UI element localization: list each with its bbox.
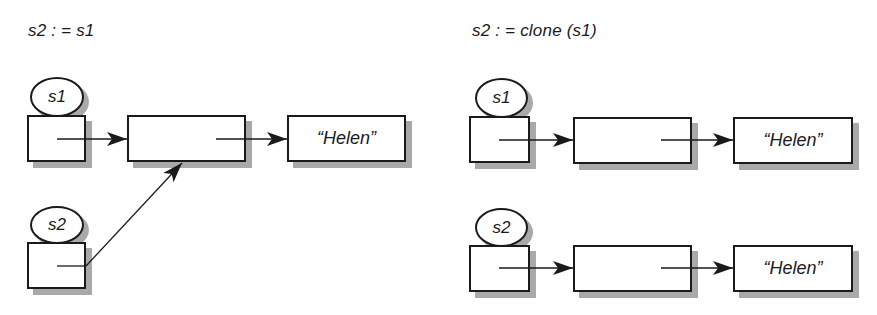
object-box-2 — [573, 245, 692, 292]
string-box-helen-1: “Helen” — [733, 117, 853, 164]
object-box — [127, 115, 246, 162]
variable-box-s2 — [27, 242, 86, 289]
variable-label-text: s1 — [493, 88, 511, 108]
arrow-s2-to-object — [86, 163, 182, 266]
string-value: “Helen” — [763, 258, 822, 279]
variable-label-text: s2 — [493, 218, 511, 238]
variable-box-s1 — [469, 116, 530, 163]
string-box-helen-2: “Helen” — [733, 245, 853, 292]
right-panel-title: s2 : = clone (s1) — [472, 21, 597, 41]
string-value: “Helen” — [317, 128, 376, 149]
variable-label-text: s2 — [48, 215, 66, 235]
string-box-helen: “Helen” — [287, 115, 406, 162]
object-box-1 — [573, 117, 692, 164]
variable-label-s2: s2 — [30, 206, 84, 244]
variable-label-s1: s1 — [30, 77, 84, 117]
variable-label-text: s1 — [48, 87, 66, 107]
left-panel-title: s2 : = s1 — [28, 21, 95, 41]
variable-label-s1: s1 — [475, 78, 528, 118]
variable-box-s2 — [469, 245, 530, 292]
variable-box-s1 — [27, 115, 86, 162]
variable-label-s2: s2 — [475, 208, 528, 247]
string-value: “Helen” — [763, 130, 822, 151]
